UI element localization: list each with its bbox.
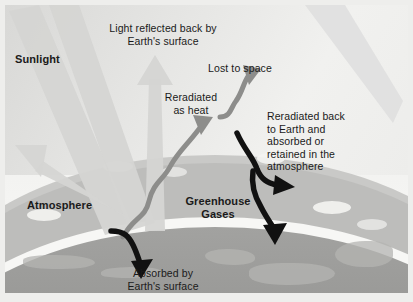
label-absorbed-by-surface: Absorbed by Earth's surface bbox=[93, 267, 233, 292]
label-atmosphere: Atmosphere bbox=[27, 199, 92, 212]
cloud-shape bbox=[313, 201, 351, 214]
landmass-shape bbox=[335, 241, 393, 267]
label-reradiated-back: Reradiated back to Earth and absorbed or… bbox=[267, 110, 408, 173]
label-greenhouse-gases: Greenhouse Gases bbox=[168, 195, 268, 220]
greenhouse-effect-figure: Sunlight Light reflected back by Earth's… bbox=[0, 0, 413, 302]
label-reradiated-as-heat: Reradiated as heat bbox=[150, 91, 232, 116]
cloud-shape bbox=[103, 161, 133, 172]
cloud-shape bbox=[161, 167, 187, 177]
cloud-shape bbox=[357, 219, 387, 230]
diagram-scene: Sunlight Light reflected back by Earth's… bbox=[5, 5, 408, 293]
label-light-reflected: Light reflected back by Earth's surface bbox=[85, 22, 241, 47]
label-sunlight: Sunlight bbox=[15, 53, 60, 66]
landmass-shape bbox=[23, 255, 95, 269]
label-lost-to-space: Lost to space bbox=[188, 62, 292, 75]
